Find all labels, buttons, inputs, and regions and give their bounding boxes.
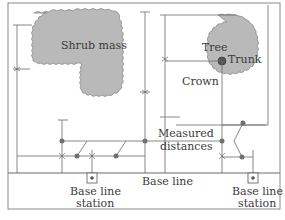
tree-label: Tree — [202, 41, 228, 54]
measurement-point-icon — [143, 139, 148, 144]
measured-label-line2: distances — [160, 140, 213, 153]
station-marker-right-icon — [248, 173, 258, 183]
shrub-mass-label: Shrub mass — [61, 39, 127, 52]
measured-label-line1: Measured — [158, 127, 214, 140]
trunk-label: Trunk — [228, 53, 262, 66]
base-line-label: Base line — [142, 175, 193, 188]
station-marker-left-icon — [87, 173, 97, 183]
crown-label: Crown — [182, 75, 219, 88]
measurement-point-icon — [60, 139, 65, 144]
station-left-label-line2: station — [76, 197, 114, 210]
measurement-point-icon — [220, 139, 225, 144]
site-measurement-diagram: Shrub mass Tree Trunk Crown — [0, 0, 285, 220]
station-right-label-line2: station — [238, 197, 276, 210]
